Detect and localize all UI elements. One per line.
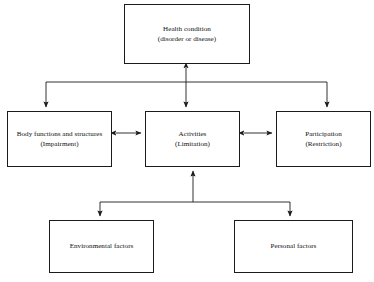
node-body-functions-line2: (Impairment): [40, 139, 78, 149]
node-body-functions-line1: Body functions and structures: [17, 129, 103, 139]
node-participation-line1: Participation: [305, 129, 342, 139]
node-activities[interactable]: Activities (Limitation): [145, 111, 240, 167]
node-participation[interactable]: Participation (Restriction): [276, 111, 371, 167]
node-participation-line2: (Restriction): [305, 139, 341, 149]
node-personal-factors[interactable]: Personal factors: [234, 220, 353, 273]
node-activities-line1: Activities: [179, 129, 207, 139]
node-personal-factors-line1: Personal factors: [271, 241, 317, 251]
node-health-condition-line1: Health condition: [163, 24, 211, 34]
node-health-condition-line2: (disorder or disease): [158, 34, 216, 44]
node-activities-line2: (Limitation): [175, 139, 210, 149]
icf-diagram: Health condition (disorder or disease) B…: [0, 0, 374, 282]
node-health-condition[interactable]: Health condition (disorder or disease): [124, 4, 250, 64]
node-environmental-factors[interactable]: Environmental factors: [49, 220, 154, 273]
node-environmental-factors-line1: Environmental factors: [70, 241, 134, 251]
node-body-functions[interactable]: Body functions and structures (Impairmen…: [7, 111, 112, 167]
